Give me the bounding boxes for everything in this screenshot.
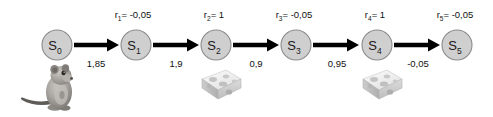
state-node-s5[interactable]: S5 [442, 30, 472, 60]
value-label-s2-s3: 0,9 [249, 58, 262, 69]
state-node-s0[interactable]: S0 [42, 30, 72, 60]
value-label-s1-s2: 1,9 [169, 58, 182, 69]
cheese-hole [387, 89, 393, 94]
state-label-base-s3: S [287, 38, 296, 53]
state-label-sub-s2: 2 [216, 46, 221, 56]
cheese-hole [226, 89, 232, 94]
state-label-sub-s3: 3 [296, 46, 301, 56]
state-node-s3[interactable]: S3 [281, 30, 311, 60]
cheese-hole [219, 82, 227, 87]
mouse-paw-shape [59, 91, 64, 99]
state-label-sub-s5: 5 [457, 46, 462, 56]
cheese-hole [207, 84, 211, 88]
state-label-base-s1: S [127, 38, 136, 53]
state-label-base-s4: S [368, 38, 377, 53]
state-label-sub-s0: 0 [57, 46, 62, 56]
value-label-s0-s1: 1,85 [87, 58, 106, 69]
cheese-hole [384, 75, 390, 79]
cheese-hole [232, 80, 237, 83]
cheese-hole [368, 84, 372, 88]
cheese-hole [380, 82, 388, 87]
state-label-sub-s1: 1 [136, 46, 141, 56]
value-label-s3-s4: 0,95 [328, 58, 347, 69]
reward-label-r2: r2= 1 [204, 9, 224, 22]
mouse-eye-glint-shape [64, 72, 65, 73]
cheese-hole [209, 77, 217, 82]
state-node-s2[interactable]: S2 [201, 30, 231, 60]
cheese-hole [370, 77, 378, 82]
mouse-nose-shape [70, 77, 73, 79]
mouse-eye-shape [61, 71, 65, 76]
state-label-base-s5: S [448, 38, 457, 53]
reward-label-r4: r4= 1 [365, 9, 385, 22]
state-label-sub-s4: 4 [377, 46, 382, 56]
cheese-hole [393, 80, 398, 83]
mouse-ear-inner-shape [52, 67, 57, 73]
state-node-s4[interactable]: S4 [362, 30, 392, 60]
state-node-s1[interactable]: S1 [121, 30, 151, 60]
state-label-base-s2: S [207, 38, 216, 53]
markov-chain-diagram: S0 S1 S2 S3 S4 [0, 0, 493, 117]
cheese-hole [223, 75, 229, 79]
value-label-s4-s5: -0,05 [407, 58, 429, 69]
state-label-base-s0: S [48, 38, 57, 53]
